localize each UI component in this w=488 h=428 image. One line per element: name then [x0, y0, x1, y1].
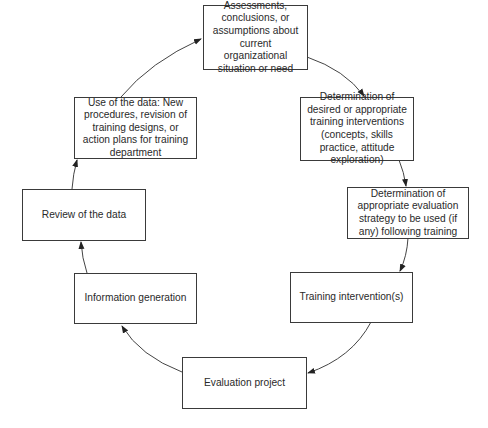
node-determination-interventions: Determination of desired or appropriate … [300, 97, 414, 161]
node-label: Use of the data: New procedures, revisio… [79, 97, 192, 160]
arrow-assessments-to-interventions [307, 57, 364, 96]
node-determination-evaluation: Determination of appropriate evaluation … [347, 187, 469, 239]
node-assessments: Assessments, conclusions, or assumptions… [203, 5, 308, 70]
node-label: Training intervention(s) [300, 291, 404, 304]
node-information-generation: Information generation [74, 273, 197, 324]
arrow-review-to-use [72, 160, 77, 189]
node-review-data: Review of the data [22, 189, 146, 241]
node-label: Review of the data [42, 209, 126, 222]
arrow-evaluation-strategy-to-training [400, 238, 408, 271]
node-label: Information generation [85, 292, 187, 305]
arrow-use-to-assessments [121, 39, 201, 97]
node-label: Assessments, conclusions, or assumptions… [208, 0, 303, 75]
arrow-training-to-evaluation-project [308, 322, 371, 373]
node-label: Evaluation project [204, 377, 285, 390]
node-label: Determination of appropriate evaluation … [352, 188, 464, 238]
node-training-intervention: Training intervention(s) [290, 272, 413, 323]
node-label: Determination of desired or appropriate … [305, 91, 409, 167]
node-use-data: Use of the data: New procedures, revisio… [74, 97, 197, 159]
arrow-information-to-review [81, 242, 87, 273]
arrow-evaluation-project-to-information [122, 326, 182, 372]
node-evaluation-project: Evaluation project [182, 357, 307, 409]
